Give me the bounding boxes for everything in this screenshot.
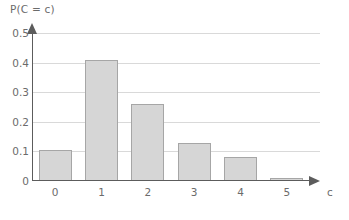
y-axis-tick-label: 0 xyxy=(1,175,29,187)
bar xyxy=(85,60,118,181)
bar xyxy=(39,150,72,181)
x-axis-tick-label: 4 xyxy=(226,186,256,198)
x-axis-title: c xyxy=(327,186,333,198)
gridline xyxy=(33,122,320,123)
gridline xyxy=(33,92,320,93)
bar xyxy=(131,104,164,181)
x-axis-tick-label: 3 xyxy=(179,186,209,198)
plot-area xyxy=(33,33,320,181)
x-axis-tick-label: 2 xyxy=(133,186,163,198)
gridline xyxy=(33,151,320,152)
bar xyxy=(178,143,211,181)
gridline xyxy=(33,63,320,64)
gridline xyxy=(33,33,320,34)
probability-mass-function-chart: P(C = c) c 00.10.20.30.40.5012345 xyxy=(0,0,349,220)
x-axis-tick-label: 0 xyxy=(40,186,70,198)
x-axis-arrow-icon xyxy=(309,176,320,186)
y-axis-tick-label: 0.1 xyxy=(1,145,29,157)
y-axis-tick-label: 0.4 xyxy=(1,57,29,69)
bar xyxy=(224,157,257,181)
y-axis-tick-label: 0.2 xyxy=(1,116,29,128)
y-axis-line xyxy=(32,33,33,181)
y-axis-title: P(C = c) xyxy=(10,3,55,15)
x-axis-tick-label: 5 xyxy=(272,186,302,198)
y-axis-tick-label: 0.3 xyxy=(1,86,29,98)
y-axis-tick-label: 0.5 xyxy=(1,27,29,39)
x-axis-line xyxy=(33,180,311,181)
x-axis-tick-label: 1 xyxy=(87,186,117,198)
